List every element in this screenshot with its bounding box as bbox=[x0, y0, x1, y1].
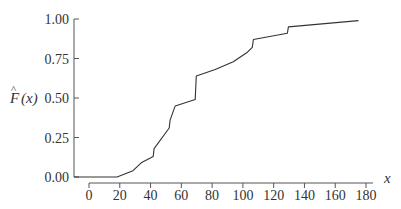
x-tick-label: 20 bbox=[113, 188, 127, 203]
y-tick-label: 0.50 bbox=[45, 91, 70, 106]
x-axis-label: x bbox=[383, 170, 391, 186]
x-tick-label: 160 bbox=[325, 188, 346, 203]
x-axis: 020406080100120140160180 bbox=[86, 183, 377, 203]
x-tick-label: 100 bbox=[232, 188, 253, 203]
ecdf-line bbox=[74, 21, 359, 177]
ecdf-curve bbox=[74, 21, 359, 177]
x-tick-label: 40 bbox=[144, 188, 158, 203]
y-tick-label: 0.75 bbox=[45, 52, 70, 67]
ecdf-chart: 0.000.250.500.751.00 0204060801001201401… bbox=[0, 0, 401, 209]
x-tick-label: 180 bbox=[356, 188, 377, 203]
y-axis-label-arg: (x) bbox=[21, 90, 38, 107]
y-tick-label: 1.00 bbox=[45, 12, 70, 27]
x-tick-label: 60 bbox=[174, 188, 188, 203]
x-tick-label: 140 bbox=[294, 188, 315, 203]
x-tick-label: 80 bbox=[205, 188, 219, 203]
x-tick-label: 0 bbox=[86, 188, 93, 203]
y-axis-label-hat: ^ bbox=[11, 83, 17, 95]
y-tick-label: 0.00 bbox=[45, 170, 70, 185]
y-tick-label: 0.25 bbox=[45, 131, 70, 146]
x-tick-label: 120 bbox=[263, 188, 284, 203]
y-axis: 0.000.250.500.751.00 bbox=[45, 12, 80, 185]
y-axis-label: F ^ (x) bbox=[9, 83, 38, 107]
